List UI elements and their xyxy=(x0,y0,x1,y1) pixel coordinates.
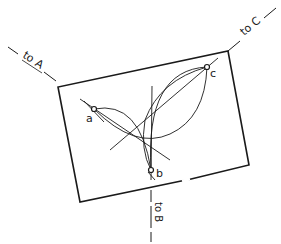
label-point-b: b xyxy=(156,167,163,180)
point-b-marker xyxy=(149,168,154,173)
plane-table-sheet xyxy=(58,51,249,202)
label-to-c: to C xyxy=(238,14,264,38)
label-to-b: to B xyxy=(153,202,164,222)
label-point-c: c xyxy=(210,67,216,80)
construction-arcs xyxy=(94,67,207,170)
direction-lines xyxy=(8,8,276,242)
point-c-marker xyxy=(205,65,210,70)
label-to-a: to A xyxy=(20,49,46,72)
rays xyxy=(80,58,218,180)
resection-diagram: to A to C to B a b c xyxy=(0,0,281,244)
label-point-a: a xyxy=(86,112,93,125)
point-a-marker xyxy=(92,107,97,112)
